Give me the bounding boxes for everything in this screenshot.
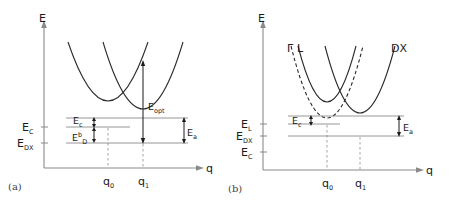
panel-b-x-axis-arrowhead	[416, 167, 424, 173]
panel-a-annotation-Ea: Ea	[187, 127, 197, 141]
panel-a-arrow-EDb	[92, 127, 96, 143]
panel-a-ytick-label-EDX: EDX	[17, 137, 34, 152]
panel-a-arrow-Ec	[92, 117, 96, 128]
panel-b-annotation-Ea: Ea	[403, 122, 413, 136]
panel-b-arrow-Ea	[397, 115, 401, 137]
panel-b-curve-label-L: L	[297, 42, 304, 55]
panel-b-curve-label-DX: DX	[391, 42, 407, 55]
panel-b-curve-gamma	[291, 46, 363, 118]
panel-b-y-axis-label: E	[258, 12, 265, 25]
panel-b-ytick-label-EC: EC	[241, 146, 253, 161]
panel-a-x-axis-label: q	[206, 162, 213, 175]
panel-a-y-axis-label: E	[39, 12, 46, 25]
panel-a-label: (a)	[8, 181, 22, 192]
panel-b-xtick-label-q1: q1	[355, 177, 366, 192]
panel-a-curve-left	[68, 42, 148, 101]
panel-b-x-axis-label: q	[426, 164, 433, 177]
panel-a: E q EC EDX q0 q1 Ec	[8, 12, 213, 192]
panel-a-ytick-label-EC: EC	[22, 121, 34, 136]
panel-b-xtick-label-q0: q0	[322, 177, 333, 192]
panel-a-x-axis-arrowhead	[196, 165, 204, 171]
panel-a-xtick-label-q0: q0	[103, 175, 114, 190]
panel-b: E q EL EDX EC q0 q1 Γ L DX	[228, 12, 433, 194]
configuration-coordinate-diagram: E q EC EDX q0 q1 Ec	[0, 0, 449, 201]
panel-a-arrow-Ea	[182, 117, 186, 144]
panel-a-annotation-Eopt: Eopt	[148, 101, 165, 115]
panel-a-annotation-EDb: EbD	[72, 131, 87, 146]
panel-b-curve-label-gamma: Γ	[287, 42, 294, 55]
panel-a-arrow-Eopt	[141, 60, 145, 144]
panel-b-annotation-Ec: Ec	[292, 115, 302, 129]
panel-a-xtick-label-q1: q1	[138, 175, 149, 190]
panel-b-label: (b)	[228, 183, 242, 194]
figure-container: E q EC EDX q0 q1 Ec	[0, 0, 449, 201]
